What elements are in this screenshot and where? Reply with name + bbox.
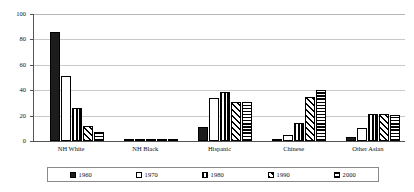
legend-swatch-icon (136, 172, 142, 178)
legend-item[interactable]: 2000 (312, 171, 378, 178)
bar (72, 108, 82, 141)
bar (83, 126, 93, 141)
bar (357, 128, 367, 141)
legend-item[interactable]: 1960 (48, 171, 114, 178)
legend-label: 1980 (211, 171, 224, 178)
x-axis-category-label: Chinese (257, 145, 331, 152)
bar (379, 114, 389, 141)
x-axis-category-label: Hispanic (182, 145, 256, 152)
bar (146, 139, 156, 141)
y-axis-tick-label: 100 (0, 11, 26, 18)
y-axis-tick-label: 20 (0, 113, 26, 120)
bar (294, 123, 304, 141)
bar-group (272, 14, 326, 141)
legend-swatch-icon (70, 172, 76, 178)
x-axis-category-label: Other Asian (331, 145, 405, 152)
bar (168, 139, 178, 141)
legend-label: 1990 (277, 171, 290, 178)
y-axis-tick-label: 60 (0, 62, 26, 69)
plot-area: NH WhiteNH BlackHispanicChineseOther Asi… (33, 14, 405, 142)
bar (316, 90, 326, 141)
legend-label: 2000 (343, 171, 356, 178)
legend: 19601970198019902000 (47, 167, 379, 182)
legend-swatch-icon (202, 172, 208, 178)
y-axis-tick-label: 40 (0, 87, 26, 94)
bar (283, 135, 293, 141)
legend-item[interactable]: 1980 (180, 171, 246, 178)
x-axis-category-label: NH White (34, 145, 108, 152)
bar (198, 127, 208, 141)
bar (346, 137, 356, 141)
bar (50, 32, 60, 141)
legend-item[interactable]: 1970 (114, 171, 180, 178)
bar (157, 139, 167, 141)
y-axis-tick-label: 0 (0, 138, 26, 145)
bar-group (198, 14, 252, 141)
bar (61, 76, 71, 141)
bar (124, 139, 134, 141)
bar-chart: 100 80 60 40 20 0 NH WhiteNH BlackHispan… (0, 0, 414, 192)
bar (220, 92, 230, 141)
legend-swatch-icon (334, 172, 340, 178)
legend-label: 1960 (79, 171, 92, 178)
bar-group (346, 14, 400, 141)
bar-group (50, 14, 104, 141)
bar (272, 139, 282, 141)
bar (368, 114, 378, 141)
bar (135, 139, 145, 141)
legend-swatch-icon (268, 172, 274, 178)
bar (209, 98, 219, 141)
legend-item[interactable]: 1990 (246, 171, 312, 178)
bar (242, 102, 252, 141)
legend-label: 1970 (145, 171, 158, 178)
bar (390, 115, 400, 141)
x-axis-category-label: NH Black (108, 145, 182, 152)
y-axis: 100 80 60 40 20 0 (0, 14, 30, 141)
bar (305, 97, 315, 141)
bar-group (124, 14, 178, 141)
bar (231, 102, 241, 141)
y-axis-tick-label: 80 (0, 36, 26, 43)
bar (94, 132, 104, 141)
